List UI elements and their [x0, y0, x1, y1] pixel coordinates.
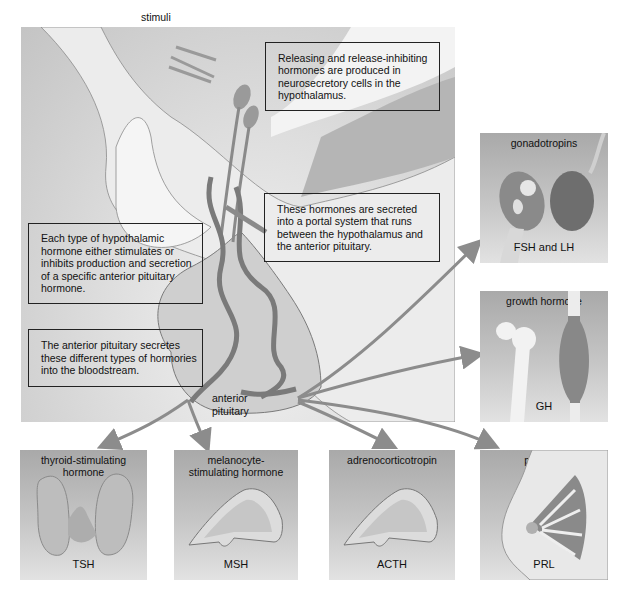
- hormone-abbreviation: MSH: [174, 558, 298, 570]
- stimuli-label: stimuli: [141, 11, 171, 24]
- hormone-abbreviation: PRL: [480, 558, 608, 570]
- callout-releasing-hormones: Releasing and release-inhibiting hormone…: [265, 42, 440, 111]
- callout-anterior-pituitary-secretes: The anterior pituitary secretes these di…: [28, 329, 203, 387]
- callout-hypothalamic-hormone: Each type of hypothalamic hormone either…: [28, 223, 203, 304]
- callout-portal-system: These hormones are secreted into a porta…: [264, 193, 440, 262]
- hormone-abbreviation: TSH: [20, 558, 147, 570]
- hormone-abbreviation: ACTH: [329, 558, 455, 570]
- panel-msh: melanocyte- stimulating hormone MSH: [174, 450, 298, 580]
- panel-tsh: thyroid-stimulating hormone TSH: [20, 450, 147, 580]
- hormone-abbreviation: GH: [480, 400, 608, 412]
- panel-prolactin: prolactin PRL: [480, 450, 608, 580]
- panel-acth: adrenocorticotropin ACTH: [329, 450, 455, 580]
- panel-gonadotropins: gonadotropins FSH and LH: [480, 133, 608, 263]
- anterior-pituitary-label: anterior pituitary: [212, 392, 249, 417]
- panel-growth-hormone: growth hormone GH: [480, 291, 608, 422]
- hormone-abbreviation: FSH and LH: [480, 241, 608, 253]
